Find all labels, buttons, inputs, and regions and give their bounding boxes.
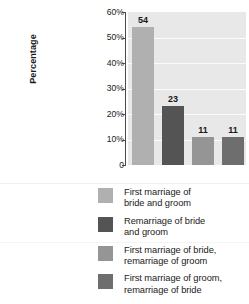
legend-label-3: First marriage of groom, remarriage of b… bbox=[124, 273, 222, 296]
legend-label-1-line1: Remarriage of bride bbox=[124, 216, 205, 227]
bar-value-label-1: 23 bbox=[158, 93, 188, 105]
y-tick-label-10: 10% bbox=[96, 134, 124, 145]
bar-value-label-0: 54 bbox=[128, 14, 158, 26]
y-axis-title: Percentage bbox=[26, 4, 40, 114]
y-axis-tick-labels: 60% 50% 40% 30% 20% 10% 0 bbox=[96, 12, 124, 165]
y-axis-tick-mark-0 bbox=[122, 165, 125, 166]
y-axis-tick-mark-60 bbox=[122, 12, 125, 13]
legend-label-0: First marriage of bride and groom bbox=[124, 187, 191, 210]
legend-label-1-line2: and groom bbox=[124, 227, 205, 238]
y-axis-tick-mark-30 bbox=[122, 89, 125, 90]
bar-first-marriage-groom-remarriage-bride[interactable] bbox=[222, 137, 244, 165]
y-tick-label-20: 20% bbox=[96, 109, 124, 120]
y-axis-tick-mark-50 bbox=[122, 38, 125, 39]
y-axis-tick-mark-40 bbox=[122, 63, 125, 64]
bar-value-label-3: 11 bbox=[218, 124, 246, 136]
y-tick-label-50: 50% bbox=[96, 32, 124, 43]
legend-swatch-icon-3 bbox=[98, 274, 113, 289]
y-tick-label-60: 60% bbox=[96, 7, 124, 18]
legend-swatch-icon-0 bbox=[98, 188, 113, 203]
legend-label-0-line1: First marriage of bbox=[124, 187, 191, 198]
y-axis-tick-mark-20 bbox=[122, 114, 125, 115]
y-tick-label-30: 30% bbox=[96, 83, 124, 94]
y-tick-label-0: 0 bbox=[96, 160, 124, 171]
legend-swatch-icon-2 bbox=[98, 246, 113, 261]
legend-label-2: First marriage of bride, remarriage of g… bbox=[124, 245, 216, 268]
legend-item-remarriage-bride-and-groom[interactable]: Remarriage of bride and groom bbox=[98, 216, 249, 239]
plot-area: 54 23 11 11 bbox=[128, 12, 246, 165]
legend-item-first-marriage-bride-and-groom[interactable]: First marriage of bride and groom bbox=[98, 187, 249, 210]
legend-label-2-line1: First marriage of bride, bbox=[124, 245, 216, 256]
y-axis-tick-mark-10 bbox=[122, 140, 125, 141]
y-tick-label-40: 40% bbox=[96, 58, 124, 69]
legend-label-3-line1: First marriage of groom, bbox=[124, 273, 222, 284]
chart-legend: First marriage of bride and groom Remarr… bbox=[98, 187, 249, 302]
bar-value-label-2: 11 bbox=[188, 124, 218, 136]
page-rule-upper bbox=[0, 183, 249, 184]
legend-swatch-icon-1 bbox=[98, 217, 113, 232]
bar-chart-figure: Percentage 60% 50% 40% 30% 20% 10% 0 bbox=[0, 0, 249, 304]
chart-plot-region: Percentage 60% 50% 40% 30% 20% 10% 0 bbox=[0, 0, 249, 180]
legend-label-3-line2: remarriage of bride bbox=[124, 285, 222, 296]
legend-item-first-marriage-bride-remarriage-groom[interactable]: First marriage of bride, remarriage of g… bbox=[98, 245, 249, 268]
y-axis-line bbox=[125, 12, 126, 166]
bar-first-marriage-bride-and-groom[interactable] bbox=[132, 27, 154, 165]
legend-label-1: Remarriage of bride and groom bbox=[124, 216, 205, 239]
bar-remarriage-bride-and-groom[interactable] bbox=[162, 106, 184, 165]
legend-label-0-line2: bride and groom bbox=[124, 198, 191, 209]
bar-first-marriage-bride-remarriage-groom[interactable] bbox=[192, 137, 214, 165]
legend-item-first-marriage-groom-remarriage-bride[interactable]: First marriage of groom, remarriage of b… bbox=[98, 273, 249, 296]
legend-label-2-line2: remarriage of groom bbox=[124, 256, 216, 267]
